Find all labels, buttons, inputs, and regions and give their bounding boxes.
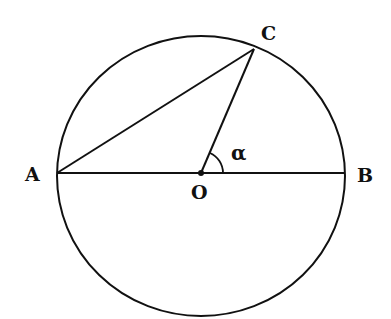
label-o: O: [191, 181, 208, 203]
center-point-o: [198, 170, 204, 176]
geometry-diagram: A B C O α: [0, 0, 391, 319]
label-alpha: α: [231, 141, 246, 165]
chord-ac: [57, 49, 254, 173]
label-b: B: [357, 164, 373, 186]
label-c: C: [261, 22, 276, 44]
angle-alpha-arc: [210, 153, 223, 173]
label-a: A: [24, 163, 40, 185]
